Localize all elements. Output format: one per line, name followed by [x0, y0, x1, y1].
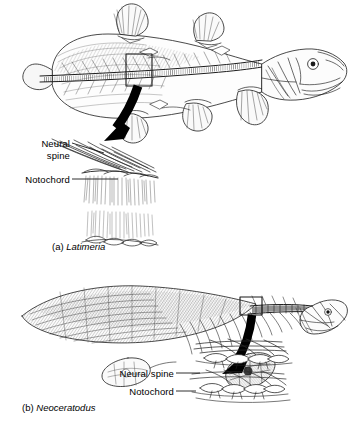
- caption-a-taxon: Latimeria: [66, 241, 105, 252]
- caption-panel-b: (b) Neoceratodus: [22, 402, 95, 413]
- caption-a-prefix: (a): [52, 241, 64, 252]
- figure-panel-b: Neural spine Notochord (b) Neoceratodus: [0, 262, 350, 430]
- figure-panel-a: Neural spine Notochord (a) Latimeria: [0, 0, 350, 262]
- caption-b-prefix: (b): [22, 402, 34, 413]
- leader-lines-a: [0, 0, 350, 262]
- caption-b-taxon: Neoceratodus: [36, 402, 95, 413]
- caption-panel-a: (a) Latimeria: [52, 241, 105, 252]
- leader-neural-spine-a: [72, 143, 104, 153]
